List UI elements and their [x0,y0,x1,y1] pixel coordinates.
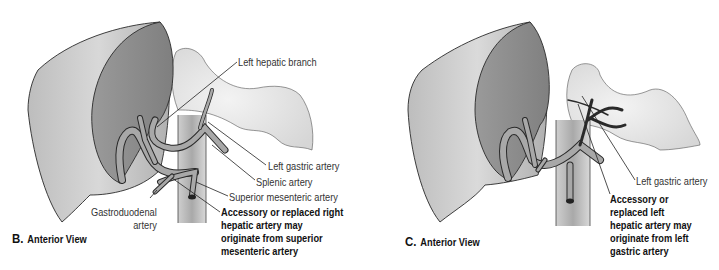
caption-c-text: Anterior View [420,236,479,248]
panel-b: Left hepatic branch Left gastric artery … [0,0,360,270]
label-left-gastric-artery: Left gastric artery [268,160,339,172]
panel-c: Left gastric artery Accessory or replace… [360,0,719,270]
label-gastroduodenal-line1: Gastroduodenal [91,206,157,218]
label-splenic-artery: Splenic artery [256,176,312,188]
note-c-line4: originate from left [610,232,689,245]
caption-b-text: Anterior View [27,233,86,245]
label-left-gastric-artery: Left gastric artery [636,175,707,187]
caption-b-letter: B. [12,231,23,246]
note-c-line3: hepatic artery may [610,219,692,232]
label-superior-mesenteric-artery: Superior mesenteric artery [229,191,338,203]
note-b-line1: Accessory or replaced right [221,206,343,219]
note-c-line5: gastric artery [610,245,669,258]
note-b-line4: mesenteric artery [221,245,298,258]
label-gastroduodenal-line2: artery [133,219,157,231]
note-b-line3: originate from superior [221,232,323,245]
note-b-line2: hepatic artery may [221,219,303,232]
caption-b: B. Anterior View [12,229,87,247]
caption-c-letter: C. [405,234,416,249]
note-c-line1: Accessory or [610,193,669,206]
label-left-hepatic-branch: Left hepatic branch [238,56,317,68]
caption-c: C. Anterior View [405,232,480,250]
note-c-line2: replaced left [610,206,664,219]
